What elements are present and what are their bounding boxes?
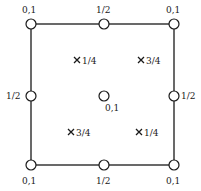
cross-label: 1/4	[82, 56, 97, 66]
cross-marker-icon	[136, 129, 142, 135]
cross-label: 3/4	[146, 56, 161, 66]
position-corner-tr: 0,1	[166, 5, 180, 29]
position-corner-tl: 0,1	[22, 5, 36, 29]
cross-marker-icon	[74, 57, 80, 63]
circle-marker-icon	[169, 91, 179, 101]
position-mid-right: 1/2	[169, 91, 195, 101]
position-cross-br: 1/4	[136, 128, 159, 138]
position-label: 1/2	[96, 5, 110, 15]
position-label: 1/2	[6, 91, 20, 101]
position-cross-tl: 1/4	[74, 56, 97, 66]
position-mid-bottom: 1/2	[96, 160, 110, 186]
position-label: 0,1	[166, 176, 180, 186]
circle-marker-icon	[169, 19, 179, 29]
position-label: 1/2	[181, 91, 195, 101]
cross-label: 3/4	[76, 128, 91, 138]
circle-marker-icon	[169, 160, 179, 170]
position-label: 0,1	[22, 5, 36, 15]
position-mid-left: 1/2	[6, 91, 36, 101]
circle-marker-icon	[26, 91, 36, 101]
cross-marker-icon	[138, 57, 144, 63]
circle-marker-icon	[26, 19, 36, 29]
position-corner-br: 0,1	[166, 160, 180, 186]
circle-marker-icon	[99, 91, 109, 101]
position-corner-bl: 0,1	[22, 160, 36, 186]
cross-marker-icon	[68, 129, 74, 135]
symmetry-diagram: 0,10,10,10,11/21/21/21/20,1 1/43/43/41/4	[0, 0, 201, 191]
circle-marker-icon	[26, 160, 36, 170]
position-cross-bl: 3/4	[68, 128, 91, 138]
position-label: 0,1	[166, 5, 180, 15]
circle-marker-icon	[99, 160, 109, 170]
position-label: 0,1	[22, 176, 36, 186]
cross-label: 1/4	[144, 128, 159, 138]
position-cross-tr: 3/4	[138, 56, 161, 66]
circle-marker-icon	[99, 19, 109, 29]
position-label: 1/2	[96, 176, 110, 186]
position-label: 0,1	[105, 103, 119, 113]
position-center: 0,1	[99, 91, 119, 113]
position-mid-top: 1/2	[96, 5, 110, 29]
